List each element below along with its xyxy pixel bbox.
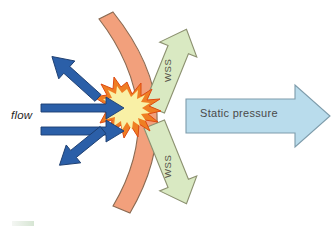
flow-arrow-incoming-upper [41, 97, 124, 119]
flow-label: flow [11, 110, 32, 122]
bottom-edge-artifact [12, 221, 34, 226]
wss-label-top: WSS [163, 59, 173, 82]
flow-arrow-deflected-up [44, 48, 106, 107]
diagram-graphics [0, 0, 335, 229]
wss-label-bottom: WSS [163, 155, 173, 178]
flow-arrow-incoming-lower [41, 120, 124, 142]
static-pressure-label: Static pressure [200, 108, 278, 119]
diagram-canvas: flow Static pressure WSS WSS [0, 0, 335, 229]
